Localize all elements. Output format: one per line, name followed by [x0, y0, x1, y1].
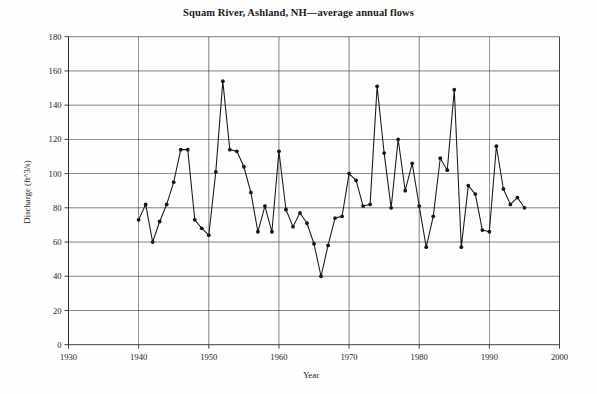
data-point-marker [333, 216, 337, 220]
data-point-marker [158, 220, 162, 224]
data-point-marker [403, 189, 407, 193]
data-point-marker [389, 206, 393, 210]
data-point-marker [151, 240, 155, 244]
x-tick-label: 1970 [340, 352, 357, 362]
x-tick-label: 1950 [200, 352, 217, 362]
data-point-marker [312, 242, 316, 246]
x-tick-label: 1990 [481, 352, 498, 362]
y-tick-label: 80 [53, 203, 62, 213]
data-point-marker [221, 79, 225, 83]
x-axis-title: Year [303, 370, 319, 380]
y-tick-label: 20 [53, 306, 62, 316]
data-point-marker [193, 218, 197, 222]
data-point-marker [214, 170, 218, 174]
data-point-marker [326, 244, 330, 248]
chart-canvas: 020406080100120140160180 193019401950196… [0, 0, 597, 394]
data-point-marker [319, 274, 323, 278]
data-point-marker [516, 196, 520, 200]
data-point-marker [207, 233, 211, 237]
data-point-marker [305, 221, 309, 225]
data-point-marker [466, 184, 470, 188]
data-point-marker [396, 137, 400, 141]
data-point-marker [480, 228, 484, 232]
y-tick-label: 140 [49, 100, 62, 110]
data-point-marker [431, 214, 435, 218]
data-point-marker [509, 202, 513, 206]
data-point-marker [277, 149, 281, 153]
y-axis-title: Discharge (ft^3/s) [22, 160, 32, 223]
data-point-marker [228, 148, 232, 152]
data-series-line [139, 81, 525, 276]
figure-page: Squam River, Ashland, NH—average annual … [0, 0, 597, 394]
x-tick-label: 2000 [551, 352, 568, 362]
data-point-marker [340, 214, 344, 218]
data-point-marker [445, 168, 449, 172]
data-point-marker [256, 230, 260, 234]
data-point-marker [417, 204, 421, 208]
x-tick-label: 1940 [130, 352, 147, 362]
data-point-marker [438, 156, 442, 160]
y-tick-label: 120 [49, 134, 62, 144]
data-point-marker [368, 202, 372, 206]
x-tick-label: 1960 [270, 352, 287, 362]
data-point-marker [242, 165, 246, 169]
y-tick-labels-group: 020406080100120140160180 [49, 32, 62, 350]
data-point-marker [298, 211, 302, 215]
line-chart-svg: 020406080100120140160180 193019401950196… [0, 0, 597, 394]
data-point-marker [165, 202, 169, 206]
data-point-marker [410, 161, 414, 165]
data-point-marker [270, 230, 274, 234]
data-point-marker [347, 172, 351, 176]
x-tick-label: 1930 [60, 352, 77, 362]
y-tick-label: 0 [57, 340, 61, 350]
data-point-marker [452, 88, 456, 92]
data-point-marker [179, 148, 183, 152]
y-tick-label: 40 [53, 271, 62, 281]
data-point-marker [361, 204, 365, 208]
data-point-marker [200, 226, 204, 230]
data-point-marker [235, 149, 239, 153]
data-point-marker [249, 191, 253, 195]
gridlines-group [69, 37, 560, 345]
x-tick-label: 1980 [411, 352, 428, 362]
data-point-marker [424, 245, 428, 249]
data-point-marker [487, 230, 491, 234]
data-point-marker [172, 180, 176, 184]
data-point-marker [494, 144, 498, 148]
y-tick-label: 180 [49, 32, 62, 42]
data-point-marker [354, 179, 358, 183]
data-point-marker [144, 202, 148, 206]
data-point-marker [382, 151, 386, 155]
data-point-marker [501, 187, 505, 191]
data-point-marker [473, 192, 477, 196]
data-point-marker [375, 84, 379, 88]
y-tick-label: 160 [49, 66, 62, 76]
data-point-markers-group [137, 79, 527, 278]
y-tick-label: 60 [53, 237, 62, 247]
data-point-marker [284, 208, 288, 212]
data-point-marker [263, 204, 267, 208]
data-point-marker [137, 218, 141, 222]
data-point-marker [523, 206, 527, 210]
data-point-marker [291, 225, 295, 229]
x-tick-labels-group: 19301940195019601970198019902000 [60, 352, 568, 362]
data-point-marker [186, 148, 190, 152]
y-tick-label: 100 [49, 169, 62, 179]
data-point-marker [459, 245, 463, 249]
